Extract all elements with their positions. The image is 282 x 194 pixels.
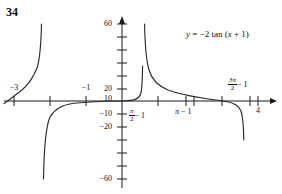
pi-tail: − 1 bbox=[181, 107, 192, 116]
x-tick-label-3pi-over-2-minus-1: 3π 2 − 1 bbox=[228, 77, 248, 92]
equation-equals: = bbox=[192, 29, 197, 39]
y-tick-label-neg10: −10 bbox=[82, 110, 112, 118]
problem-number: 34 bbox=[6, 6, 18, 18]
y-tick-label-60: 60 bbox=[86, 20, 112, 28]
y-tick-label-neg20: −20 bbox=[82, 123, 112, 131]
equation-coef: −2 tan ( bbox=[200, 29, 228, 39]
three-pi-over-2-tail: − 1 bbox=[237, 80, 248, 89]
x-tick-label-pi-minus-1: π − 1 bbox=[175, 108, 192, 116]
x-axis-arrow bbox=[270, 98, 277, 104]
x-axis bbox=[4, 98, 277, 104]
fraction-3pi-over-2: 3π 2 bbox=[228, 77, 237, 92]
y-tick-label-10: 10 bbox=[86, 95, 112, 103]
equation-y: y bbox=[186, 29, 190, 39]
equation-tail: + 1) bbox=[232, 29, 249, 39]
pi-symbol: π bbox=[175, 107, 179, 116]
pi-over-2-tail: − 1 bbox=[135, 111, 146, 120]
x-tick-label-neg1: −1 bbox=[76, 84, 96, 92]
y-axis-arrow bbox=[119, 16, 125, 24]
x-tick-label-4: 4 bbox=[249, 107, 267, 115]
equation-annotation: y = −2 tan (x + 1) bbox=[186, 30, 249, 39]
y-tick-label-neg60: −60 bbox=[82, 175, 112, 183]
x-tick-label-pi-over-2-minus-1: π 2 − 1 bbox=[129, 108, 145, 123]
x-tick-label-neg3: −3 bbox=[4, 84, 24, 92]
y-axis bbox=[119, 16, 125, 188]
